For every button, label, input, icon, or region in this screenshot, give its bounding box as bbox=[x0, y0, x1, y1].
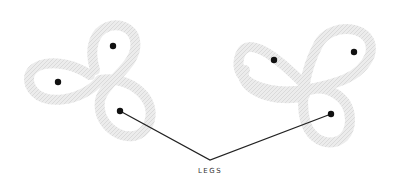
knot-diagram bbox=[0, 0, 418, 187]
leg-dot-icon bbox=[328, 111, 334, 117]
dot-icon bbox=[271, 57, 277, 63]
leg-dot-icon bbox=[117, 108, 123, 114]
dot-icon bbox=[351, 49, 357, 55]
dot-icon bbox=[55, 79, 61, 85]
left-knot bbox=[29, 25, 151, 136]
right-knot bbox=[238, 29, 370, 143]
dot-icon bbox=[110, 43, 116, 49]
legs-label: LEGS bbox=[190, 167, 230, 175]
